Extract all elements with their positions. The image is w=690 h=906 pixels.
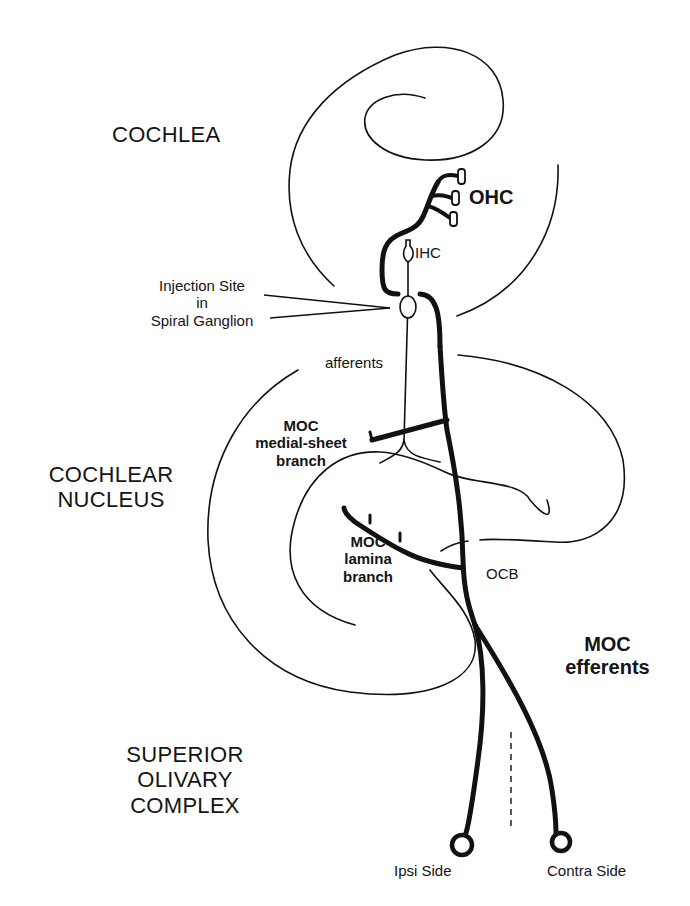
ohc-cells [450,169,465,226]
label-moc-efferents-line2: efferents [545,656,670,679]
label-cochlear-nucleus: COCHLEAR NUCLEUS [36,462,186,513]
label-medial-sheet-line3: branch [236,452,366,469]
afferent-neuron [400,240,416,318]
label-afferents: afferents [325,354,383,371]
label-moc-medial-sheet-branch: MOC medial-sheet branch [236,417,366,469]
injection-pointer-lines [264,295,390,318]
label-injection-line3: Spiral Ganglion [132,312,272,329]
label-injection-line1: Injection Site [132,277,272,294]
label-lamina-line2: lamina [328,550,408,567]
label-injection-line2: in [132,294,272,311]
label-ihc: IHC [415,244,441,261]
label-ocb: OCB [486,565,519,582]
label-soc-line1: SUPERIOR [120,742,250,767]
label-moc-efferents: MOC efferents [545,633,670,679]
label-contra-side: Contra Side [547,862,626,879]
moc-efferent-axon [344,175,556,833]
branch-terminals [370,432,400,541]
label-injection-site: Injection Site in Spiral Ganglion [132,277,272,329]
label-moc-lamina-branch: MOC lamina branch [328,533,408,585]
label-lamina-line3: branch [328,568,408,585]
label-ipsi-side: Ipsi Side [394,862,452,879]
moc-cell-bodies [452,833,570,855]
label-soc-line3: COMPLEX [120,793,250,818]
label-medial-sheet-line1: MOC [236,417,366,434]
label-soc-line2: OLIVARY [120,767,250,792]
cochlea-outline [289,47,558,316]
label-cochlear-nucleus-line1: COCHLEAR [36,462,186,487]
label-moc-efferents-line1: MOC [545,633,670,656]
label-lamina-line1: MOC [328,533,408,550]
label-superior-olivary-complex: SUPERIOR OLIVARY COMPLEX [120,742,250,818]
label-medial-sheet-line2: medial-sheet [236,434,366,451]
label-cochlear-nucleus-line2: NUCLEUS [36,487,186,512]
label-ohc: OHC [469,186,513,209]
label-cochlea: COCHLEA [112,122,220,147]
